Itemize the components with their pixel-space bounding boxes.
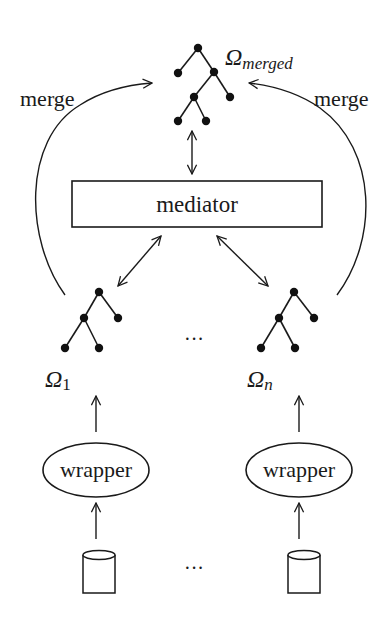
mediator-architecture-diagram: Ωmerged merge merge mediator · — [0, 0, 391, 628]
tree-node — [190, 93, 198, 101]
tree-node — [210, 68, 218, 76]
tree-node — [257, 344, 265, 352]
tree-node — [174, 117, 182, 125]
tree-node — [80, 314, 88, 322]
source-schema-tree-n — [257, 288, 318, 352]
double-arrow-mediator-source-n — [217, 236, 268, 286]
wrapper-label-n: wrapper — [263, 457, 336, 482]
merge-label-left: merge — [20, 86, 75, 111]
tree-node — [226, 93, 234, 101]
source-schema-label-1: Ω1 — [45, 366, 71, 394]
database-icon-n — [288, 551, 320, 594]
ellipsis-trees: ··· — [184, 328, 204, 350]
mediator-box: mediator — [72, 181, 322, 227]
tree-node — [194, 44, 202, 52]
wrapper-label-1: wrapper — [60, 457, 133, 482]
tree-node — [114, 314, 122, 322]
double-arrow-mediator-source-1 — [118, 236, 161, 286]
tree-node — [61, 344, 69, 352]
tree-node — [95, 344, 103, 352]
tree-node — [95, 288, 103, 296]
tree-node — [202, 117, 210, 125]
wrapper-1: wrapper — [43, 443, 149, 497]
tree-node — [290, 288, 298, 296]
tree-node — [291, 344, 299, 352]
source-schema-tree-1 — [61, 288, 122, 352]
mediator-label: mediator — [156, 192, 238, 217]
database-icon-1 — [83, 551, 115, 594]
tree-node — [310, 314, 318, 322]
ellipsis-databases: ··· — [184, 557, 204, 579]
merged-schema-label: Ωmerged — [225, 44, 293, 73]
tree-node — [275, 314, 283, 322]
tree-node — [174, 69, 182, 77]
merge-label-right: merge — [314, 86, 369, 111]
wrapper-n: wrapper — [246, 443, 352, 497]
source-schema-label-n: Ωn — [247, 366, 273, 394]
